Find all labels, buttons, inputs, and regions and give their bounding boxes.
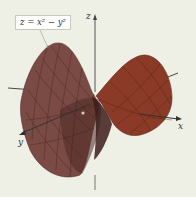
origin-highlight	[81, 111, 84, 114]
z-axis-arrow-icon	[93, 14, 97, 20]
x-axis-label: x	[178, 121, 183, 131]
y-axis-label: y	[18, 137, 23, 147]
saddle-surface-figure: z = x² − y² z x y	[0, 0, 196, 197]
y-axis-arrow-icon	[19, 130, 26, 135]
label-leader-line	[40, 30, 48, 48]
equation-label: z = x² − y²	[15, 15, 71, 30]
z-axis-label: z	[86, 11, 91, 21]
